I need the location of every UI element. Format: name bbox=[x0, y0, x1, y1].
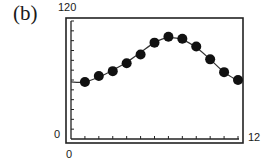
data-point bbox=[94, 71, 104, 81]
data-point bbox=[80, 77, 90, 87]
data-point bbox=[219, 67, 229, 77]
data-point bbox=[205, 54, 215, 64]
data-point bbox=[177, 34, 187, 44]
data-point bbox=[191, 42, 201, 52]
data-point bbox=[136, 49, 146, 59]
data-point bbox=[163, 32, 173, 42]
data-point bbox=[150, 38, 160, 48]
outer-frame bbox=[66, 18, 243, 143]
data-point bbox=[122, 58, 132, 68]
data-point bbox=[233, 75, 243, 85]
data-point bbox=[108, 66, 118, 76]
chart-canvas bbox=[0, 0, 270, 165]
